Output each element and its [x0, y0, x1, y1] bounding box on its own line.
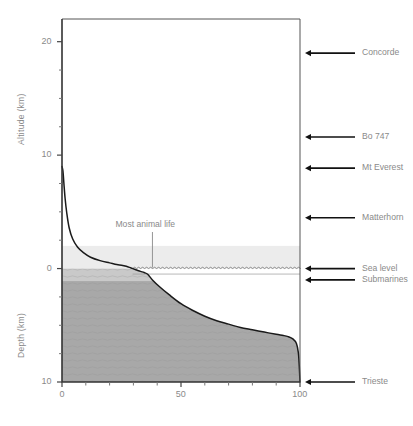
- x-tick-label: 100: [292, 389, 307, 399]
- marker-label-trieste: Trieste: [362, 376, 388, 386]
- y-tick-label: 10: [42, 149, 52, 159]
- y-axis-altitude-label: Altitude (km): [16, 93, 26, 145]
- atmosphere-photic-band: [62, 246, 300, 269]
- hypsographic-curve-figure: [0, 0, 413, 426]
- water-texture: [62, 269, 300, 382]
- depth-bands: [62, 246, 300, 269]
- y-axis-depth-label: Depth (km): [16, 313, 26, 358]
- marker-label-bo-747: Bo 747: [362, 131, 389, 141]
- arrow-head-bo-747: [305, 134, 311, 140]
- arrow-head-matterhorn: [305, 215, 311, 221]
- marker-arrows: [305, 50, 355, 385]
- arrow-head-trieste: [305, 379, 311, 385]
- marker-label-matterhorn: Matterhorn: [362, 212, 404, 222]
- y-tick-label: 0: [47, 263, 52, 273]
- x-tick-label: 0: [59, 389, 64, 399]
- marker-label-concorde: Concorde: [362, 47, 399, 57]
- marker-label-sea-level: Sea level: [362, 263, 397, 273]
- arrow-head-mt-everest: [305, 165, 311, 171]
- arrow-head-concorde: [305, 50, 311, 56]
- marker-label-mt-everest: Mt Everest: [362, 162, 403, 172]
- ocean-water-fill: [62, 269, 300, 382]
- y-tick-label: 20: [42, 36, 52, 46]
- marker-label-submarines: Submarines: [362, 274, 408, 284]
- y-tick-label: 10: [42, 376, 52, 386]
- x-tick-label: 50: [176, 389, 186, 399]
- arrow-head-submarines: [305, 277, 311, 283]
- callout-most-animal-life: Most animal life: [115, 219, 175, 229]
- arrow-head-sea-level: [305, 265, 311, 271]
